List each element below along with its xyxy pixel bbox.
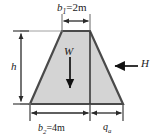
label-top-width-value: 2m — [72, 1, 86, 13]
engineering-diagram: b1=2m b2=4m qa h W H — [0, 0, 156, 139]
label-weight-force: W — [64, 46, 73, 57]
label-base-right-segment-subscript: a — [108, 127, 111, 134]
trapezoid-wall-body — [30, 31, 123, 104]
label-bottom-width-value: 4m — [52, 122, 65, 133]
label-height: h — [11, 61, 17, 72]
label-bottom-width: b2=4m — [38, 123, 65, 136]
label-horizontal-force: H — [141, 58, 149, 69]
label-base-right-segment: qa — [103, 122, 111, 135]
label-top-width: b1=2m — [57, 2, 87, 16]
diagram-canvas — [0, 0, 156, 139]
